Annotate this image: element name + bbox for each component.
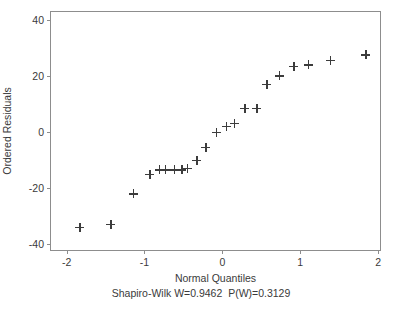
scatter-points-layer: [51, 12, 380, 250]
data-point: [326, 56, 335, 65]
data-point: [252, 104, 261, 113]
x-tick-label: 0: [219, 256, 225, 268]
data-point: [192, 156, 201, 165]
x-tick-label: 2: [375, 256, 381, 268]
qq-plot-figure: 40200-20-40 -2-1012 Ordered Residuals No…: [0, 0, 402, 313]
data-point: [170, 165, 179, 174]
plot-frame: 40200-20-40 -2-1012: [50, 11, 381, 251]
y-tick-mark: [47, 132, 51, 133]
data-point: [201, 143, 210, 152]
data-point: [240, 104, 249, 113]
data-point: [275, 71, 284, 80]
y-tick-label: 0: [38, 126, 44, 138]
x-tick-mark: [222, 250, 223, 254]
y-tick-label: -20: [29, 182, 44, 194]
data-point: [304, 60, 313, 69]
y-tick-mark: [47, 188, 51, 189]
x-tick-mark: [144, 250, 145, 254]
x-tick-label: -2: [62, 256, 71, 268]
data-point: [155, 165, 164, 174]
x-tick-label: 1: [297, 256, 303, 268]
shapiro-wilk-annotation: Shapiro-Wilk W=0.9462 P(W)=0.3129: [0, 287, 402, 299]
data-point: [129, 189, 138, 198]
x-tick-mark: [300, 250, 301, 254]
x-axis-title: Normal Quantiles: [50, 272, 381, 284]
data-point: [289, 62, 298, 71]
y-tick-label: -40: [29, 238, 44, 250]
data-point: [212, 128, 221, 137]
data-point: [177, 165, 186, 174]
data-point: [183, 164, 192, 173]
y-axis-title: Ordered Residuals: [1, 87, 13, 175]
data-point: [222, 122, 231, 131]
data-point: [262, 80, 271, 89]
y-tick-label: 20: [32, 70, 44, 82]
x-tick-label: -1: [140, 256, 149, 268]
x-tick-mark: [378, 250, 379, 254]
y-tick-mark: [47, 76, 51, 77]
data-point: [106, 220, 115, 229]
data-point: [230, 119, 239, 128]
data-point: [161, 165, 170, 174]
y-tick-mark: [47, 244, 51, 245]
x-tick-mark: [67, 250, 68, 254]
y-tick-mark: [47, 20, 51, 21]
data-point: [145, 170, 154, 179]
y-tick-label: 40: [32, 14, 44, 26]
data-point: [75, 223, 84, 232]
data-point: [361, 50, 370, 59]
